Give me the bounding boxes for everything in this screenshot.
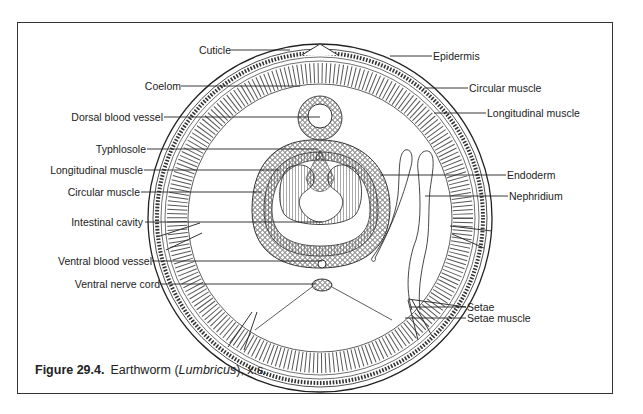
label-endoderm: Endoderm: [507, 169, 555, 181]
label-dorsal-blood-vessel: Dorsal blood vessel: [71, 111, 163, 123]
label-typhlosole: Typhlosole: [96, 143, 146, 155]
label-coelom: Coelom: [145, 80, 181, 92]
label-intestinal-cavity: Intestinal cavity: [71, 216, 143, 228]
label-longitudinal-muscle-outer: Longitudinal muscle: [487, 107, 580, 119]
label-setae-muscle: Setae muscle: [467, 312, 531, 324]
figure-number: Figure 29.4.: [35, 363, 104, 377]
label-circular-muscle-outer: Circular muscle: [469, 82, 541, 94]
intestine: [252, 140, 390, 268]
label-longitudinal-muscle-inner: Longitudinal muscle: [50, 164, 143, 176]
label-ventral-nerve-cord: Ventral nerve cord: [75, 278, 160, 290]
earthworm-cross-section-illustration: [0, 0, 643, 414]
dorsal-blood-vessel: [298, 96, 342, 140]
ventral-nerve-cord: [312, 279, 332, 291]
caption-text-before: Earthworm (: [110, 363, 178, 377]
caption-text-after: ), x.s.: [236, 363, 267, 377]
label-nephridium: Nephridium: [509, 190, 563, 202]
figure-caption: Figure 29.4.Earthworm (Lumbricus), x.s.: [35, 363, 267, 377]
label-epidermis: Epidermis: [433, 50, 480, 62]
label-ventral-blood-vessel: Ventral blood vessel: [58, 255, 152, 267]
label-circular-muscle-inner: Circular muscle: [68, 186, 140, 198]
label-cuticle: Cuticle: [199, 44, 231, 56]
caption-genus: Lumbricus: [179, 363, 237, 377]
